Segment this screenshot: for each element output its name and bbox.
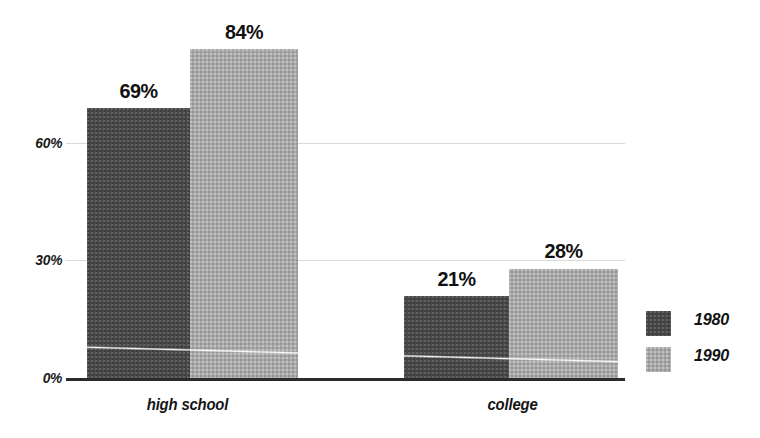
y-axis-tick-label: 60% (35, 134, 62, 151)
y-axis-tick-label: 0% (43, 369, 62, 386)
y-axis-tick-60: 60% (0, 134, 62, 152)
bar-value-label-high-school-1990: 84% (194, 20, 294, 44)
bar-value-label-college-1990: 28% (513, 239, 614, 263)
y-axis-tick-label: 30% (35, 251, 62, 268)
legend-swatch-icon (646, 347, 671, 372)
legend-item-1990: 1990 (646, 345, 756, 381)
legend-item-1980: 1980 (646, 309, 756, 345)
bar-high-school-1980 (87, 108, 190, 379)
category-label-college: college (436, 396, 589, 414)
y-axis-tick-0: 0% (0, 369, 62, 387)
legend-item-label: 1990 (694, 346, 729, 366)
legend: 1980 1990 (646, 309, 756, 381)
bar-value-label-college-1980: 21% (408, 267, 505, 291)
legend-swatch-icon (646, 311, 671, 336)
plot-area: 60% 30% 0% 69% 84% 21% 28% high school c… (0, 0, 760, 438)
bar-college-1990 (509, 269, 618, 379)
legend-item-label: 1980 (694, 310, 729, 330)
bar-college-1980 (404, 296, 509, 379)
bar-value-label-high-school-1980: 69% (91, 79, 186, 103)
y-axis-tick-30: 30% (0, 251, 62, 269)
bar-high-school-1990 (190, 49, 298, 379)
bar-chart: 60% 30% 0% 69% 84% 21% 28% high school c… (0, 0, 760, 438)
x-axis-line (66, 378, 625, 381)
category-label-high-school: high school (111, 396, 264, 414)
